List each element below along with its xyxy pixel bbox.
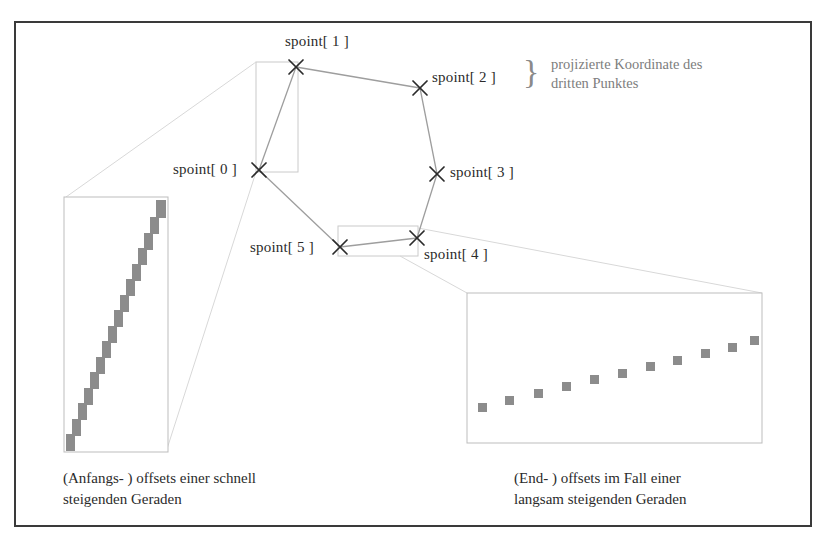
right-detail-caption-line-1: (End- ) offsets im Fall einer xyxy=(514,468,681,489)
label-spoint-5: spoint[ 5 ] xyxy=(250,239,314,256)
annotation-line-2: dritten Punktes xyxy=(551,74,638,93)
figure-frame xyxy=(14,21,812,527)
right-detail-caption-line-2: langsam steigenden Geraden xyxy=(514,489,686,510)
label-spoint-4: spoint[ 4 ] xyxy=(424,246,488,263)
left-detail-caption-line-2: steigenden Geraden xyxy=(63,489,182,510)
annotation-brace: } xyxy=(523,55,539,89)
left-detail-caption-line-1: (Anfangs- ) offsets einer schnell xyxy=(63,468,256,489)
label-spoint-2: spoint[ 2 ] xyxy=(432,69,496,86)
label-spoint-0: spoint[ 0 ] xyxy=(173,161,237,178)
label-spoint-3: spoint[ 3 ] xyxy=(450,164,514,181)
label-spoint-1: spoint[ 1 ] xyxy=(285,33,349,50)
annotation-line-1: projizierte Koordinate des xyxy=(551,55,702,74)
figure-canvas: spoint[ 0 ] spoint[ 1 ] spoint[ 2 ] spoi… xyxy=(0,0,826,550)
